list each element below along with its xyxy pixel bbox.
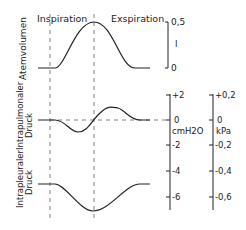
respiration-diagram: Inspiration Exspiration Atemvolumen 0,5 … xyxy=(0,0,246,230)
intrapleural-label-line2: Druck xyxy=(24,170,34,195)
cmh2o-tick-plus2: +2 xyxy=(172,90,185,100)
inspiration-label: Inspiration xyxy=(37,13,87,24)
volume-axis-unit: l xyxy=(175,39,178,49)
volume-axis-top: 0,5 xyxy=(171,17,185,27)
cmh2o-unit: cmH2O xyxy=(172,126,204,136)
kpa-tick-plus02: +0,2 xyxy=(215,90,236,100)
cmh2o-tick-minus6: -6 xyxy=(172,192,180,202)
cmh2o-tick-0: 0 xyxy=(174,115,179,125)
volume-curve xyxy=(38,22,150,68)
cmh2o-tick-minus4: -4 xyxy=(172,166,180,176)
kpa-tick-minus06: -0,6 xyxy=(215,192,232,202)
cmh2o-tick-minus2: -2 xyxy=(172,140,180,150)
kpa-tick-minus04: -0,4 xyxy=(215,166,232,176)
kpa-tick-minus02: -0,2 xyxy=(215,140,232,150)
volume-axis xyxy=(165,22,168,68)
intrapulmonary-label-line2: Druck xyxy=(24,113,34,138)
expiration-label: Exspiration xyxy=(111,13,164,24)
kpa-unit: kPa xyxy=(216,126,231,136)
volume-panel-label: Atemvolumen xyxy=(18,17,28,80)
volume-axis-bottom: 0 xyxy=(171,63,177,73)
kpa-tick-0: 0 xyxy=(217,115,222,125)
